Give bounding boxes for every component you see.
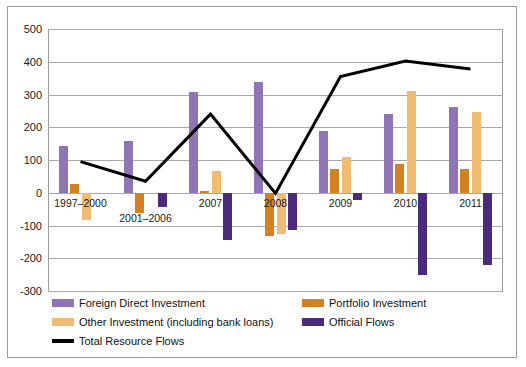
legend-item-portfolio-investment: Portfolio Investment xyxy=(302,297,426,309)
y-tick-label-400: 400 xyxy=(24,62,42,63)
legend-label: Foreign Direct Investment xyxy=(79,297,205,309)
y-tick-label-0: 0 xyxy=(36,193,42,194)
y-tick-label-300: 300 xyxy=(24,95,42,96)
legend-item-total-resource-flows: Total Resource Flows xyxy=(52,335,184,347)
legend-row: Other Investment (including bank loans)O… xyxy=(52,316,504,335)
gridline--300 xyxy=(48,291,503,292)
y-tick-label--200: -200 xyxy=(20,258,42,259)
legend-swatch-icon xyxy=(52,339,74,343)
plot-area: 5004003002001000-100-200-300 1997–200020… xyxy=(48,29,503,291)
legend-label: Total Resource Flows xyxy=(79,335,184,347)
legend-row: Total Resource Flows xyxy=(52,335,504,354)
chart-frame: 5004003002001000-100-200-300 1997–200020… xyxy=(7,6,517,358)
legend-swatch-icon xyxy=(52,318,74,326)
legend-label: Other Investment (including bank loans) xyxy=(79,316,273,328)
legend-item-foreign-direct-investment: Foreign Direct Investment xyxy=(52,297,205,309)
legend-item-other-investment-including-bank-loans: Other Investment (including bank loans) xyxy=(52,316,273,328)
legend-item-official-flows: Official Flows xyxy=(302,316,394,328)
y-tick-label--100: -100 xyxy=(20,226,42,227)
chart-legend: Foreign Direct InvestmentPortfolio Inves… xyxy=(52,297,504,354)
y-tick-label-100: 100 xyxy=(24,160,42,161)
y-tick-label--300: -300 xyxy=(20,291,42,292)
y-tick-label-500: 500 xyxy=(24,29,42,30)
legend-swatch-icon xyxy=(302,318,324,326)
legend-swatch-icon xyxy=(302,299,324,307)
total-resource-flows-line xyxy=(48,29,503,291)
y-tick-label-200: 200 xyxy=(24,127,42,128)
legend-label: Portfolio Investment xyxy=(329,297,426,309)
legend-label: Official Flows xyxy=(329,316,394,328)
legend-swatch-icon xyxy=(52,299,74,307)
legend-row: Foreign Direct InvestmentPortfolio Inves… xyxy=(52,297,504,316)
